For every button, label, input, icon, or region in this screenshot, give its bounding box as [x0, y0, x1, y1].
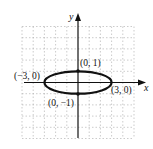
y-axis-arrow-icon — [75, 13, 81, 21]
x-axis-label: x — [143, 82, 149, 93]
point-top — [76, 69, 80, 73]
label-bottom-vertex: (0, −1) — [48, 98, 74, 109]
label-left-vertex: (−3, 0) — [14, 71, 40, 82]
ellipse-plot: y x (0, 1) (−3, 0) (3, 0) (0, −1) — [0, 0, 153, 149]
point-bottom — [76, 92, 80, 96]
label-right-vertex: (3, 0) — [111, 85, 132, 96]
y-axis-label: y — [68, 11, 74, 22]
label-top-vertex: (0, 1) — [80, 58, 101, 69]
